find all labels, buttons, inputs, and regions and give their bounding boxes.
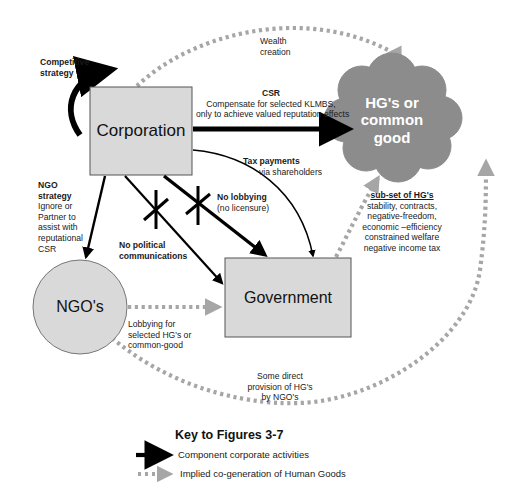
- csr-desc-line-1: Compensate for selected KLMBS,: [196, 99, 346, 110]
- ngo-label: NGO's: [33, 260, 127, 354]
- ngo-strategy-desc-1: Ignore or: [38, 201, 83, 212]
- subset-item: negative-freedom,: [352, 211, 452, 222]
- key-item-dotted: Implied co-generation of Human Goods: [180, 468, 346, 479]
- corporation-label: Corporation: [90, 87, 192, 175]
- wealth-creation-label: Wealth creation: [260, 36, 291, 57]
- no-lobbying-label: No lobbying (no licensure): [217, 192, 269, 213]
- x-mark-lobbying: [186, 186, 210, 225]
- wealth-creation-line-1: Wealth: [260, 36, 291, 47]
- subset-title: sub-set of HG's: [352, 190, 452, 201]
- subset-item: stability, contracts,: [352, 201, 452, 212]
- tax-payments-title: Tax payments: [243, 156, 300, 167]
- ngo-strategy-label: NGO strategy Ignore or Partner to assist…: [38, 180, 83, 254]
- no-political-line-2: communications: [119, 251, 187, 262]
- no-lobbying-title: No lobbying: [217, 192, 269, 203]
- ngo-lobbying-line-2: selected HG's or: [128, 330, 191, 341]
- competitive-strategy-label: Competitive strategy: [40, 57, 89, 78]
- csr-label: CSR Compensate for selected KLMBS, only …: [196, 88, 346, 120]
- csr-desc-line-2: only to achieve valued reputation effect…: [196, 109, 346, 120]
- no-political-line-1: No political: [119, 240, 187, 251]
- government-label: Government: [225, 258, 351, 337]
- ngo-lobbying-line-3: common-good: [128, 340, 191, 351]
- direct-provision-line-1: Some direct: [240, 371, 320, 382]
- ngo-strategy-desc-3: assist with: [38, 222, 83, 233]
- wealth-creation-line-2: creation: [260, 47, 291, 58]
- competitive-strategy-line-2: strategy: [40, 68, 89, 79]
- subset-item: economic –efficiency: [352, 222, 452, 233]
- subset-hgs-label: sub-set of HG's stability, contracts, ne…: [352, 190, 452, 254]
- common-good-line-1: HG's or: [361, 94, 424, 112]
- tax-payments-desc: via shareholders: [259, 167, 322, 178]
- common-good-line-3: good: [361, 129, 424, 147]
- subset-item: constrained welfare: [352, 232, 452, 243]
- x-mark-political: [144, 190, 168, 229]
- ngo-strategy-desc-5: CSR: [38, 244, 83, 255]
- ngo-lobbying-line-1: Lobbying for: [128, 319, 191, 330]
- direct-provision-line-3: by NGO's: [240, 392, 320, 403]
- common-good-label: HG's or common good: [336, 72, 448, 168]
- ngo-strategy-arrow: [86, 176, 105, 257]
- key-swatches: [136, 455, 170, 474]
- ngo-strategy-desc-2: Partner to: [38, 212, 83, 223]
- ngo-strategy-desc-4: reputational: [38, 233, 83, 244]
- ngo-strategy-title-1: NGO: [38, 180, 83, 191]
- no-political-arrow: [125, 176, 222, 283]
- ngo-lobbying-label: Lobbying for selected HG's or common-goo…: [128, 319, 191, 351]
- competitive-strategy-line-1: Competitive: [40, 57, 89, 68]
- direct-provision-label: Some direct provision of HG's by NGO's: [240, 371, 320, 403]
- direct-provision-line-2: provision of HG's: [240, 382, 320, 393]
- key-item-solid: Component corporate activities: [178, 449, 309, 460]
- no-licensure-desc: (no licensure): [217, 203, 269, 214]
- csr-title: CSR: [196, 88, 346, 99]
- key-title: Key to Figures 3-7: [175, 428, 283, 442]
- subset-item: negative income tax: [352, 243, 452, 254]
- no-political-label: No political communications: [119, 240, 187, 261]
- ngo-strategy-title-2: strategy: [38, 191, 83, 202]
- common-good-line-2: common: [361, 111, 424, 129]
